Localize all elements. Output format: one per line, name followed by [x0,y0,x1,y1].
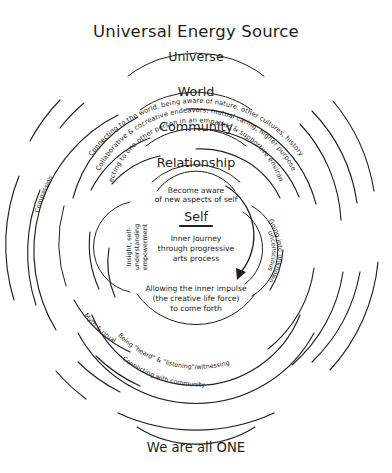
center-heading-self: Self [0,210,392,225]
ring-heading-universe: Universe [0,50,392,65]
page-title: Universal Energy Source [0,22,392,41]
text-become-aware: Become aware of new aspects of self [0,186,392,205]
inner-journey-line-1: Inner Journey [0,234,392,244]
allowing-line-3: to come forth [0,304,392,314]
become-aware-line-2: of new aspects of self [0,195,392,204]
become-aware-line-1: Become aware [0,186,392,195]
inner-journey-line-2: through progressive [0,244,392,254]
diagram-canvas: Connecting to the world, being aware of … [0,0,392,473]
allowing-line-2: (the creative life force) [0,294,392,304]
footer-text: We are all ONE [0,440,392,456]
allowing-line-1: Allowing the inner impulse [0,284,392,294]
ring-heading-world: World [0,84,392,99]
text-allowing-inner-impulse: Allowing the inner impulse (the creative… [0,284,392,314]
inner-journey-line-3: arts process [0,254,392,264]
label-myth-ritual: Myth & ritual [83,312,117,345]
text-inner-journey: Inner Journey through progressive arts p… [0,234,392,264]
ring-heading-relationship: Relationship [0,155,392,170]
ring-being-heard [92,315,300,385]
ring-heading-community: Community [0,119,392,134]
